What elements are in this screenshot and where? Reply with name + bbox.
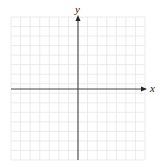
y-axis <box>76 15 81 160</box>
x-axis-arrow-icon <box>141 87 147 92</box>
y-axis-arrow-icon <box>76 15 81 21</box>
coordinate-plane: x y <box>0 0 162 167</box>
y-axis-label: y <box>74 3 80 15</box>
x-axis <box>11 87 147 92</box>
x-axis-label: x <box>149 82 155 94</box>
